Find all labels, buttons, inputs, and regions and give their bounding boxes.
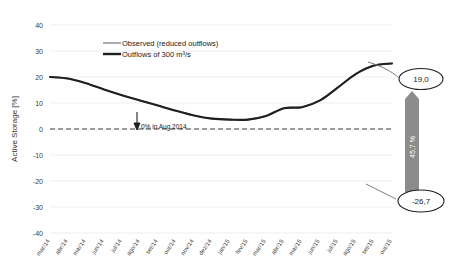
ytick-label-1: 30 — [35, 48, 43, 55]
xtick-label-2: mai/14 — [72, 238, 88, 257]
xtick-label-0: mar/14 — [35, 238, 51, 257]
legend-label-observed: Observed (reduced outflows) — [122, 39, 219, 48]
series-line-outflow — [50, 63, 392, 119]
xtick-label-17: ago/15 — [341, 238, 357, 257]
bottom-callout-label: -26,7 — [412, 197, 431, 206]
chart-container: 40 30 20 10 0 -10 -20 -30 -40 Active Sto… — [0, 0, 455, 271]
bottom-callout-leader — [366, 184, 396, 199]
xtick-label-5: ago/14 — [125, 238, 141, 257]
xtick-label-14: mai/15 — [288, 238, 304, 257]
x-axis-tick-labels: mar/14 abr/14 mai/14 jun/14 jul/14 ago/1… — [35, 238, 393, 257]
xtick-label-15: jun/15 — [306, 238, 321, 256]
xtick-label-6: set/14 — [145, 238, 160, 255]
ytick-label-2: 20 — [35, 74, 43, 81]
xtick-label-12: mar/15 — [251, 238, 267, 257]
xtick-label-18: set/15 — [361, 238, 376, 255]
ytick-label-5: -10 — [33, 152, 43, 159]
ytick-label-3: 10 — [35, 100, 43, 107]
xtick-label-3: jun/14 — [90, 238, 105, 256]
xtick-label-11: fev/15 — [235, 238, 250, 255]
ytick-label-6: -20 — [33, 178, 43, 185]
ytick-label-0: 40 — [35, 22, 43, 29]
legend: Observed (reduced outflows) Outflows of … — [103, 39, 219, 59]
y-axis-tick-labels: 40 30 20 10 0 -10 -20 -30 -40 — [33, 22, 43, 237]
top-callout-group: 19,0 — [368, 62, 443, 90]
xtick-label-4: jul/14 — [109, 238, 123, 255]
xtick-label-13: abr/15 — [270, 238, 285, 256]
series-line-observed — [50, 63, 392, 119]
y-axis-title: Active Storage [%] — [10, 96, 19, 162]
xtick-label-16: jul/15 — [325, 238, 339, 255]
xtick-label-7: out/14 — [162, 238, 177, 256]
active-storage-line-chart: 40 30 20 10 0 -10 -20 -30 -40 Active Sto… — [0, 0, 455, 271]
xtick-label-10: jan/15 — [216, 238, 231, 256]
difference-arrow-group: 45,7 % — [405, 91, 419, 192]
ytick-label-8: -40 — [33, 230, 43, 237]
difference-arrow-label: 45,7 % — [409, 136, 416, 158]
zero-crossing-annotation: 0% in Aug 2014 — [134, 112, 187, 131]
top-callout-label: 19,0 — [413, 75, 429, 84]
zero-crossing-label: 0% in Aug 2014 — [141, 123, 187, 131]
xtick-label-1: abr/14 — [54, 238, 69, 256]
xtick-label-9: dez/14 — [198, 238, 214, 257]
ytick-label-4: 0 — [39, 126, 43, 133]
legend-label-outflow: Outflows of 300 m³/s — [122, 50, 191, 59]
xtick-label-19: out/15 — [378, 238, 393, 256]
xtick-label-8: nov/14 — [180, 238, 196, 257]
ytick-label-7: -30 — [33, 204, 43, 211]
